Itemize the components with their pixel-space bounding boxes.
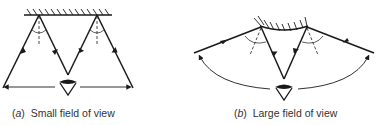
normals-a: [39, 16, 97, 44]
fov-arrows-b: [200, 57, 368, 89]
flat-mirror: [24, 9, 112, 15]
panel-b: [194, 16, 374, 100]
caption-a-letter: a: [16, 107, 22, 119]
caption-b: (b) Large field of view: [234, 107, 337, 119]
eye-icon-a: [59, 80, 77, 96]
caption-a-text: Small field of view: [31, 107, 115, 119]
caption-a-label: (a): [12, 107, 25, 119]
ray-arrows-a: [20, 47, 118, 55]
caption-b-label: (b): [234, 107, 247, 119]
normals-b: [250, 28, 318, 55]
angle-arcs-a: [32, 30, 104, 33]
caption-b-text: Large field of view: [253, 107, 338, 119]
eye-icon-b: [275, 85, 293, 101]
rays-b: [194, 27, 374, 79]
panel-a: [3, 9, 133, 95]
ray-arrows-b: [219, 37, 349, 57]
caption-a: (a) Small field of view: [12, 107, 115, 119]
caption-b-letter: b: [238, 107, 244, 119]
